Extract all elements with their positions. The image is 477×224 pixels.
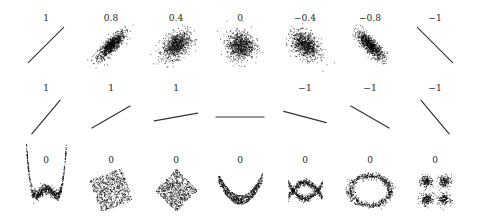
scatter-panel-r1-c3 bbox=[150, 25, 197, 68]
scatter-panel-r3-c3 bbox=[156, 169, 197, 211]
scatter-panel-r3-c7 bbox=[418, 174, 454, 210]
correlation-label: 0 bbox=[43, 156, 49, 165]
scatter-panel-r2-c5 bbox=[284, 111, 327, 122]
correlation-label: 0 bbox=[237, 14, 243, 23]
scatter-panel-r2-c6 bbox=[351, 106, 389, 128]
scatter-panel-r1-c7 bbox=[417, 27, 452, 62]
correlation-label: 0 bbox=[367, 156, 373, 165]
correlation-label: 1 bbox=[108, 84, 114, 93]
scatter-panel-r3-c6 bbox=[345, 172, 396, 209]
scatter-panel-r2-c2 bbox=[92, 106, 130, 128]
scatter-panel-r2-c1 bbox=[32, 100, 60, 134]
correlation-figure bbox=[0, 0, 477, 224]
scatter-panel-r2-c3 bbox=[154, 113, 197, 121]
correlation-label: 1 bbox=[43, 14, 49, 23]
correlation-label: 1 bbox=[173, 84, 179, 93]
correlation-label: 0.4 bbox=[169, 14, 183, 23]
correlation-label: 1 bbox=[43, 84, 49, 93]
scatter-panel-r1-c1 bbox=[28, 27, 63, 62]
correlation-label: 0.8 bbox=[104, 14, 118, 23]
scatter-panel-r1-c2 bbox=[87, 25, 133, 69]
scatter-panel-r3-c2 bbox=[90, 168, 132, 211]
correlation-label: 0 bbox=[173, 156, 179, 165]
correlation-label: −1 bbox=[298, 84, 311, 93]
correlation-label: 0 bbox=[302, 156, 308, 165]
correlation-label: −1 bbox=[428, 84, 441, 93]
scatter-panel-r3-c5 bbox=[288, 178, 323, 203]
scatter-panel-r1-c6 bbox=[353, 25, 388, 65]
scatter-panel-r1-c4 bbox=[217, 21, 263, 68]
correlation-label: −0.4 bbox=[294, 14, 316, 23]
correlation-label: −0.8 bbox=[359, 14, 381, 23]
correlation-label: −1 bbox=[428, 14, 441, 23]
correlation-label: 0 bbox=[237, 156, 243, 165]
correlation-label: 0 bbox=[108, 156, 114, 165]
scatter-panel-r2-c7 bbox=[421, 100, 449, 134]
correlation-label: −1 bbox=[363, 84, 376, 93]
scatter-panel-r1-c5 bbox=[286, 23, 335, 71]
scatter-panel-r3-c4 bbox=[218, 174, 263, 205]
scatter-panel-r3-c1 bbox=[26, 144, 67, 204]
correlation-label: 0 bbox=[432, 156, 438, 165]
